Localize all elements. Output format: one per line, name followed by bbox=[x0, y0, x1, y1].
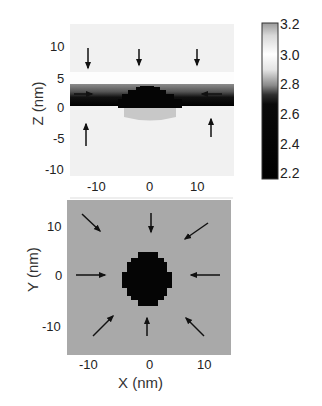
top-xtick: 10 bbox=[190, 180, 204, 193]
top-y-axis-label: Z (nm) bbox=[29, 79, 46, 129]
bottom-x-axis-label: X (nm) bbox=[118, 374, 163, 391]
figure-canvas bbox=[0, 0, 322, 406]
colorbar-tick: 3.0 bbox=[280, 48, 299, 62]
bottom-ytick: -10 bbox=[42, 320, 61, 333]
top-heatmap bbox=[70, 24, 234, 176]
bottom-ytick: 0 bbox=[55, 269, 62, 282]
colorbar-tick: 2.2 bbox=[280, 166, 299, 180]
top-ytick: 0 bbox=[57, 101, 64, 114]
bottom-xtick: -10 bbox=[79, 358, 98, 371]
bottom-ytick: 10 bbox=[47, 220, 61, 233]
colorbar-tick: 3.2 bbox=[280, 17, 299, 31]
colorbar-tick: 2.4 bbox=[280, 137, 299, 151]
bottom-xtick: 0 bbox=[146, 358, 153, 371]
bottom-y-axis-label: Y (nm) bbox=[24, 245, 41, 295]
top-xtick: -10 bbox=[87, 180, 106, 193]
top-xtick: 0 bbox=[146, 180, 153, 193]
colorbar bbox=[262, 23, 278, 179]
top-ytick: -5 bbox=[53, 132, 65, 145]
bottom-heatmap bbox=[67, 200, 231, 355]
colorbar-tick: 2.8 bbox=[280, 77, 299, 91]
top-ytick: -10 bbox=[45, 163, 64, 176]
colorbar-tick: 2.6 bbox=[280, 107, 299, 121]
top-ytick: 10 bbox=[50, 40, 64, 53]
bottom-xtick: 10 bbox=[197, 358, 211, 371]
top-ytick: 5 bbox=[57, 72, 64, 85]
